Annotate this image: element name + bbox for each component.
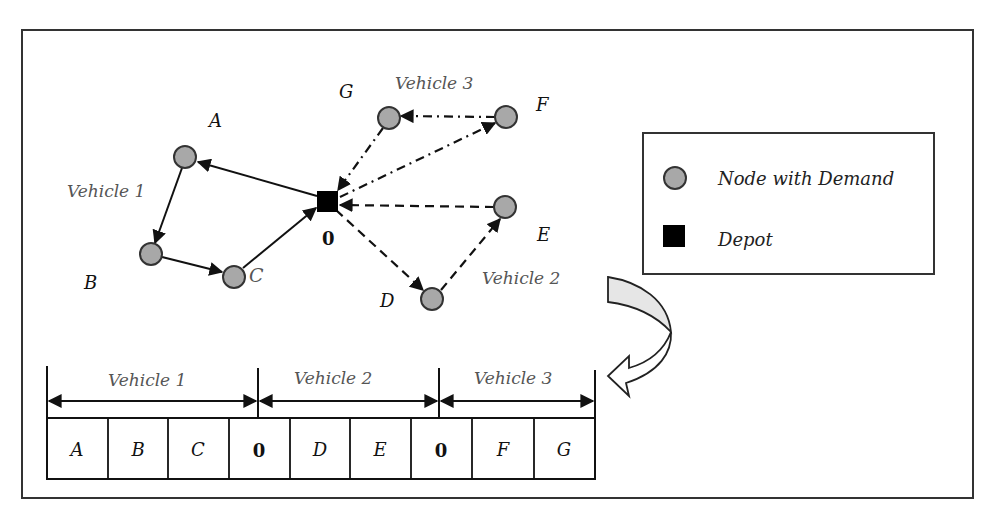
node-b-label: B	[83, 272, 97, 293]
node-c-circle	[223, 266, 245, 288]
encoding-cell: E	[372, 439, 386, 460]
node-b: B	[83, 243, 162, 293]
node-d-label: D	[379, 290, 395, 311]
legend-node-icon	[664, 167, 686, 189]
node-f: F	[495, 94, 550, 128]
encoding-cell: A	[69, 439, 84, 460]
route-vehicle-1	[155, 162, 317, 272]
vrp-diagram: 0 A B C D E F G Vehicle 1 Vehicle 2 Vehi…	[0, 0, 998, 511]
node-g: G	[339, 81, 400, 129]
node-a-circle	[174, 146, 196, 168]
node-a: A	[174, 110, 222, 168]
legend: Node with Demand Depot	[643, 133, 934, 274]
segment-label-vehicle-2: Vehicle 2	[294, 368, 372, 388]
route-vehicle-2	[336, 205, 500, 290]
depot-label: 0	[322, 228, 335, 249]
legend-node-label: Node with Demand	[717, 168, 894, 189]
node-e: E	[494, 196, 550, 245]
segment-label-vehicle-3: Vehicle 3	[474, 368, 552, 388]
node-e-circle	[494, 196, 516, 218]
encoding-cell: C	[191, 439, 205, 460]
node-e-label: E	[536, 224, 550, 245]
encoding-cell: 0	[435, 440, 448, 461]
node-f-label: F	[535, 94, 550, 115]
segment-label-vehicle-1: Vehicle 1	[108, 370, 186, 390]
encoding-cell: G	[557, 439, 571, 460]
node-b-circle	[140, 243, 162, 265]
legend-box	[643, 133, 934, 274]
curved-arrow-icon	[608, 277, 671, 396]
encoding-cell: 0	[253, 440, 266, 461]
legend-depot-icon	[663, 225, 685, 247]
encoding-cell: B	[130, 439, 144, 460]
node-c-label: C	[249, 264, 264, 286]
route-vehicle-3	[338, 116, 495, 197]
encoding-cell: D	[312, 439, 328, 460]
legend-depot-label: Depot	[717, 229, 773, 250]
depot-marker	[317, 191, 338, 212]
route-label-vehicle-1: Vehicle 1	[67, 181, 145, 201]
route-label-vehicle-2: Vehicle 2	[482, 268, 560, 288]
node-f-circle	[495, 106, 517, 128]
node-g-label: G	[339, 81, 353, 102]
node-d-circle	[421, 288, 443, 310]
encoding-table: A B C 0 D E 0 F G	[47, 418, 595, 479]
encoding-cell: F	[496, 439, 511, 460]
node-a-label: A	[207, 110, 222, 131]
node-g-circle	[378, 107, 400, 129]
route-label-vehicle-3: Vehicle 3	[395, 73, 473, 93]
node-d: D	[379, 288, 443, 311]
